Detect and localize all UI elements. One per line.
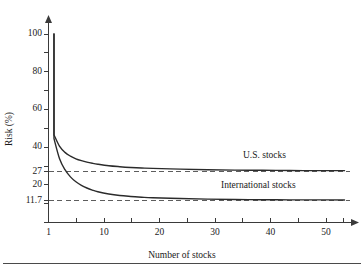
x-tick-label-20: 20 xyxy=(150,228,170,238)
series-label-international-stocks: International stocks xyxy=(221,180,296,190)
y-tick-label-80: 80 xyxy=(4,67,42,77)
y-tick-label-100: 100 xyxy=(4,29,42,39)
x-tick-label-10: 10 xyxy=(94,228,114,238)
y-tick-label-27: 27 xyxy=(4,167,42,177)
bottom-horizontal-rule xyxy=(3,263,361,264)
y-tick-label-20: 20 xyxy=(4,180,42,190)
y-tick-marks xyxy=(44,34,49,223)
curve-us-stocks xyxy=(54,34,345,171)
y-axis-arrowhead xyxy=(45,15,52,23)
risk-diversification-chart: 100 80 60 40 27 20 11.7 1 10 20 30 40 50… xyxy=(0,0,364,269)
x-axis-arrowhead xyxy=(351,219,359,226)
y-axis-title: Risk (%) xyxy=(4,99,14,159)
x-tick-label-30: 30 xyxy=(205,228,225,238)
curve-international-stocks xyxy=(54,34,345,200)
x-axis-title: Number of stocks xyxy=(0,250,364,260)
x-tick-label-1: 1 xyxy=(39,228,59,238)
y-tick-label-11-7: 11.7 xyxy=(1,196,42,206)
series-label-us-stocks: U.S. stocks xyxy=(243,150,286,160)
x-tick-label-40: 40 xyxy=(261,228,281,238)
x-tick-label-50: 50 xyxy=(316,228,336,238)
x-tick-marks xyxy=(49,218,344,223)
